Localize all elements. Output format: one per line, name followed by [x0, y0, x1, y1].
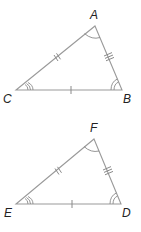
vertex-label-f: F [90, 121, 98, 135]
angle-d-arc-2 [113, 196, 118, 204]
angle-f-arc [84, 147, 99, 152]
congruent-triangles-diagram: A B C F D E [0, 0, 141, 232]
vertex-label-d: D [122, 206, 131, 220]
angle-c-arc-1 [25, 85, 28, 91]
vertex-label-c: C [3, 92, 12, 106]
side-ab-triple-tick [104, 53, 114, 61]
vertex-label-e: E [4, 206, 13, 220]
angle-e-arc-1 [25, 199, 28, 205]
triangle-def: F D E [4, 121, 131, 220]
vertex-label-b: B [123, 92, 131, 106]
side-fd-triple-tick [103, 167, 113, 175]
vertex-label-a: A [89, 8, 98, 22]
angle-a-arc [85, 34, 101, 39]
triangle-abc: A B C [3, 8, 131, 106]
angle-b-arc-2 [114, 82, 119, 90]
side-ef-double-tick [55, 167, 62, 175]
